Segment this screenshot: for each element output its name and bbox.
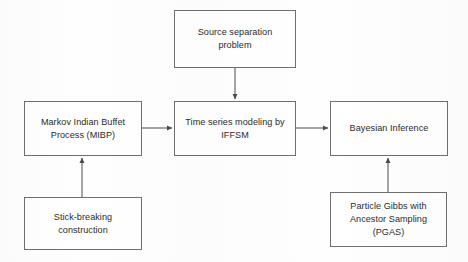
- node-label-bayesian-inference: Bayesian Inference: [345, 122, 434, 135]
- node-time-series-modeling-iffsm[interactable]: Time series modeling by IFFSM: [174, 101, 296, 156]
- node-particle-gibbs-ancestor-sampling[interactable]: Particle Gibbs with Ancestor Sampling (P…: [330, 192, 447, 247]
- node-markov-indian-buffet-process[interactable]: Markov Indian Buffet Process (MIBP): [24, 101, 142, 156]
- node-label-source-separation-problem: Source separation problem: [193, 26, 278, 52]
- node-bayesian-inference[interactable]: Bayesian Inference: [330, 101, 448, 156]
- node-label-stick-breaking-construction: Stick-breaking construction: [49, 211, 117, 237]
- node-label-time-series-modeling-iffsm: Time series modeling by IFFSM: [180, 116, 289, 142]
- node-label-markov-indian-buffet-process: Markov Indian Buffet Process (MIBP): [36, 116, 130, 142]
- node-source-separation-problem[interactable]: Source separation problem: [174, 10, 296, 68]
- node-stick-breaking-construction[interactable]: Stick-breaking construction: [24, 197, 142, 250]
- node-label-particle-gibbs-ancestor-sampling: Particle Gibbs with Ancestor Sampling (P…: [345, 200, 432, 239]
- diagram-canvas: Source separation problem Markov Indian …: [0, 0, 468, 262]
